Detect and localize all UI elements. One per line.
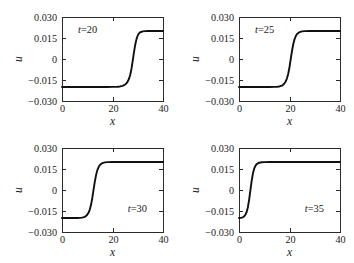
data-curve: [239, 162, 340, 218]
x-tick-label: 20: [285, 103, 295, 114]
chart-panel: 02040−0.030−0.01500.0150.030xut=35: [177, 131, 354, 262]
y-tick-label: 0: [52, 54, 57, 65]
chart-panel: 02040−0.030−0.01500.0150.030xut=30: [0, 131, 177, 262]
panel-time-annotation: t=35: [305, 203, 324, 214]
figure-panel-grid: 02040−0.030−0.01500.0150.030xut=2002040−…: [0, 0, 354, 263]
x-tick-label: 40: [158, 234, 168, 245]
x-tick-label: 20: [285, 234, 295, 245]
y-tick-label: −0.015: [205, 75, 234, 86]
x-axis-title: x: [109, 246, 116, 258]
y-tick-label: −0.030: [205, 96, 234, 107]
x-tick-label: 20: [108, 103, 118, 114]
x-axis-title: x: [109, 115, 116, 127]
y-tick-label: 0: [52, 185, 57, 196]
x-tick-label: 40: [158, 103, 168, 114]
y-tick-label: 0.030: [211, 143, 234, 154]
y-tick-label: 0.030: [34, 12, 57, 23]
y-tick-label: 0.030: [34, 143, 57, 154]
x-tick-label: 20: [108, 234, 118, 245]
y-axis-title: u: [12, 56, 24, 62]
y-tick-label: −0.030: [205, 227, 234, 238]
x-tick-label: 0: [60, 103, 65, 114]
y-tick-label: 0.015: [211, 164, 234, 175]
y-tick-label: −0.015: [205, 206, 234, 217]
y-tick-label: −0.015: [28, 206, 57, 217]
data-curve: [62, 31, 163, 87]
y-axis-title: u: [12, 187, 24, 193]
y-tick-label: 0.015: [34, 33, 57, 44]
y-tick-label: −0.030: [28, 227, 57, 238]
panel-time-annotation: t=25: [255, 24, 274, 35]
data-curve: [62, 162, 163, 218]
x-tick-label: 0: [60, 234, 65, 245]
x-axis-title: x: [286, 115, 293, 127]
x-tick-label: 40: [335, 103, 345, 114]
x-tick-label: 0: [237, 103, 242, 114]
y-tick-label: −0.015: [28, 75, 57, 86]
y-axis-title: u: [189, 56, 201, 62]
y-tick-label: 0: [229, 185, 234, 196]
chart-panel: 02040−0.030−0.01500.0150.030xut=20: [0, 0, 177, 131]
chart-panel: 02040−0.030−0.01500.0150.030xut=25: [177, 0, 354, 131]
x-tick-label: 0: [237, 234, 242, 245]
x-axis-title: x: [286, 246, 293, 258]
y-tick-label: −0.030: [28, 96, 57, 107]
panel-time-annotation: t=30: [128, 203, 147, 214]
y-tick-label: 0.015: [211, 33, 234, 44]
y-tick-label: 0.015: [34, 164, 57, 175]
y-axis-title: u: [189, 187, 201, 193]
data-curve: [239, 31, 340, 87]
y-tick-label: 0: [229, 54, 234, 65]
x-tick-label: 40: [335, 234, 345, 245]
y-tick-label: 0.030: [211, 12, 234, 23]
panel-time-annotation: t=20: [78, 24, 97, 35]
